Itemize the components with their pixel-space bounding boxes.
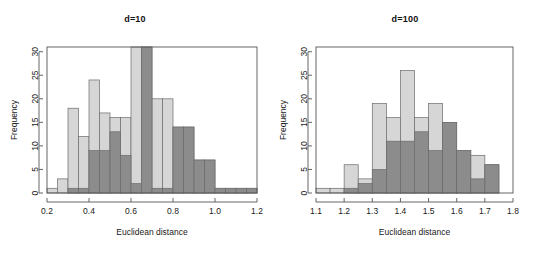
histogram-bar <box>471 179 485 193</box>
y-axis-tick-label: 15 <box>30 117 40 127</box>
histogram-bar <box>89 151 100 193</box>
y-axis-tick-label: 5 <box>30 167 40 172</box>
histogram-bar <box>184 127 195 193</box>
histogram-bar <box>131 47 142 193</box>
y-axis-tick-label: 10 <box>30 141 40 151</box>
histogram-bar <box>163 188 174 193</box>
x-axis-tick-label: 1.2 <box>338 206 350 216</box>
histogram-bar <box>400 141 414 193</box>
histogram-bar <box>415 132 429 193</box>
histogram-bar <box>58 179 69 193</box>
histogram-bar <box>344 188 358 193</box>
x-axis-tick-label: 1.7 <box>479 206 491 216</box>
histogram-bar <box>194 160 205 193</box>
histogram-bar <box>152 188 163 193</box>
histogram-bar <box>205 160 216 193</box>
x-axis-tick-label: 1.4 <box>395 206 407 216</box>
histogram-bar <box>142 47 153 193</box>
x-axis-tick-label: 1.3 <box>366 206 378 216</box>
x-axis-tick-label: 0.6 <box>125 206 137 216</box>
x-axis-title: Euclidean distance <box>379 227 451 237</box>
histogram-bar <box>47 188 58 193</box>
y-axis-tick-label: 25 <box>299 70 309 80</box>
x-axis-tick-label: 1.8 <box>507 206 519 216</box>
histogram-bar <box>316 188 330 193</box>
y-axis-tick-label: 30 <box>30 47 40 57</box>
y-axis-tick-label: 0 <box>299 190 309 195</box>
histogram-bar <box>152 99 163 193</box>
x-axis-tick-label: 1.0 <box>209 206 221 216</box>
y-axis-tick-label: 0 <box>30 190 40 195</box>
y-axis-tick-label: 10 <box>299 141 309 151</box>
chart-panel-panel-d10: d=100.20.40.60.81.01.2Euclidean distance… <box>0 0 270 254</box>
histogram-bar <box>163 99 174 193</box>
y-axis-tick-label: 25 <box>30 70 40 80</box>
histogram-bar <box>110 132 121 193</box>
histogram-bar <box>386 141 400 193</box>
x-axis-tick-label: 0.4 <box>83 206 95 216</box>
x-axis-tick-label: 1.2 <box>251 206 263 216</box>
histogram-bar <box>131 184 142 193</box>
y-axis-tick-label: 5 <box>299 167 309 172</box>
histogram-bar <box>429 151 443 193</box>
chart-panel-panel-d100: d=1001.11.21.31.41.51.61.71.8Euclidean d… <box>270 0 540 254</box>
histogram-bar <box>247 188 258 193</box>
histogram-bar <box>79 188 90 193</box>
histogram-bar <box>330 188 344 193</box>
histogram-bar <box>79 136 90 193</box>
y-axis-title: Frequency <box>9 99 19 140</box>
histogram-bar <box>68 188 79 193</box>
y-axis-title: Frequency <box>278 99 288 140</box>
histogram-bar <box>100 151 111 193</box>
histogram-bar <box>226 188 237 193</box>
histogram-bar <box>358 184 372 193</box>
histogram-bar <box>121 155 132 193</box>
y-axis-tick-label: 20 <box>30 94 40 104</box>
y-axis-tick-label: 20 <box>299 94 309 104</box>
x-axis-tick-label: 0.2 <box>41 206 53 216</box>
histogram-bar <box>236 188 247 193</box>
plot-area: 0.20.40.60.81.01.2Euclidean distance0510… <box>0 0 270 254</box>
y-axis-tick-label: 15 <box>299 117 309 127</box>
histogram-bar <box>215 188 226 193</box>
y-axis-tick-label: 30 <box>299 47 309 57</box>
histogram-bar <box>485 165 499 193</box>
histogram-bar <box>443 122 457 193</box>
x-axis-title: Euclidean distance <box>116 227 188 237</box>
x-axis-tick-label: 1.5 <box>423 206 435 216</box>
x-axis-tick-label: 0.8 <box>167 206 179 216</box>
histogram-bar <box>457 151 471 193</box>
plot-area: 1.11.21.31.41.51.61.71.8Euclidean distan… <box>270 0 540 254</box>
histogram-bar <box>372 169 386 193</box>
x-axis-tick-label: 1.6 <box>451 206 463 216</box>
x-axis-tick-label: 1.1 <box>310 206 322 216</box>
histogram-bar <box>68 108 79 193</box>
histogram-figure: d=100.20.40.60.81.01.2Euclidean distance… <box>0 0 541 254</box>
histogram-bar <box>173 127 184 193</box>
